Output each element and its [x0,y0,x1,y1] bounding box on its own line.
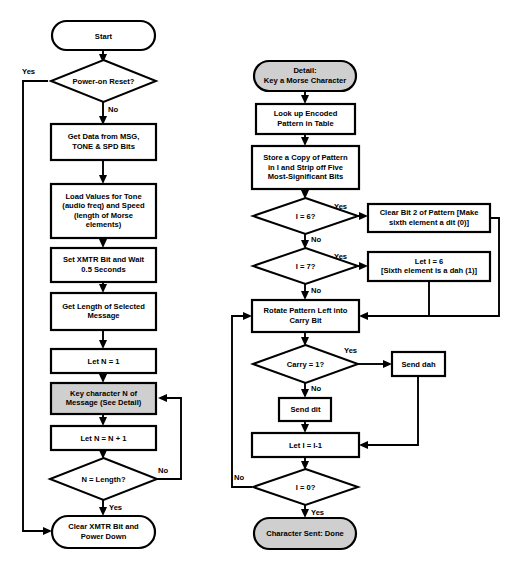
node-power-on-reset[interactable]: Power-on Reset? [51,60,156,102]
node-lookup-pattern[interactable]: Look up EncodedPattern in Table [256,104,355,134]
edge-senddah-to-letidec [366,376,418,445]
node-get-length[interactable]: Get Length of SelectedMessage [51,293,156,330]
node-let-n-1-label: Let N = 1 [88,357,121,366]
node-clear-bit-2-label: Clear Bit 2 of Pattern [Makesixth elemen… [380,208,479,227]
edge-label-neqlength-no: No [158,466,168,475]
edge-label-neqlength-yes: Yes [109,503,122,512]
arrowhead-getdata-to-loadvalues [99,175,107,184]
node-send-dit-label: Send dit [291,405,321,414]
arrowhead-ieq0-yes [301,509,309,518]
node-store-copy-label: Store a Copy of Patternin I and Strip of… [263,153,348,181]
node-start[interactable]: Start [52,21,155,50]
arrowhead-ieq0-no [243,312,252,320]
node-let-n-increment-label: Let N = N + 1 [80,434,127,443]
node-character-sent-done-label: Character Sent: Done [266,529,344,538]
edge-label-carry-yes: Yes [344,346,357,355]
node-let-i-6[interactable]: Let I = 6[Sixth element is a dah (1)] [368,252,490,281]
node-detail-start[interactable]: Detail:Key a Morse Character [254,61,356,91]
node-rotate-pattern[interactable]: Rotate Pattern Left intoCarry Bit [252,300,359,332]
node-let-n-increment[interactable]: Let N = N + 1 [51,426,156,450]
edge-label-ieq7-no: No [311,286,321,295]
edge-leti6-return-rail [366,281,429,316]
arrowhead-carry-yes [383,360,392,368]
arrowhead-loadvalues-to-setxmtr [99,239,107,248]
node-i-equals-6-label: I = 6? [296,212,316,221]
arrowhead-setxmtr-to-getlength [99,284,107,293]
flowchart-canvas: Yes No No Yes Start Power-on Reset? Get … [0,0,513,571]
edge-label-reset-yes: Yes [22,67,35,76]
node-let-i-decrement-label: Let I = I-1 [289,441,323,450]
edge-label-ieq6-no: No [311,235,321,244]
arrowhead-detailstart-to-lookup [301,95,309,104]
node-carry-equals-1-label: Carry = 1? [287,360,325,369]
node-clear-bit-2[interactable]: Clear Bit 2 of Pattern [Makesixth elemen… [368,204,490,232]
edge-label-ieq0-yes: Yes [311,508,324,517]
edge-label-carry-no: No [311,384,321,393]
arrowhead-ieq7-no [301,291,309,300]
arrowhead-neqlength-yes [99,507,107,516]
node-start-label: Start [95,32,113,41]
node-send-dah[interactable]: Send dah [392,352,445,376]
arrowhead-carry-no [301,389,309,398]
arrowhead-neqlength-no-loop [158,394,167,402]
arrowhead-getlength-to-letn1 [99,340,107,349]
node-character-sent-done[interactable]: Character Sent: Done [254,518,356,549]
node-lookup-pattern-label: Look up EncodedPattern in Table [274,109,338,128]
node-load-values[interactable]: Load Values for Tone(audio freq) and Spe… [51,184,156,238]
node-i-equals-0[interactable]: I = 0? [253,469,358,505]
node-get-data-label: Get Data from MSG,TONE & SPD Bits [68,132,140,151]
node-power-on-reset-label: Power-on Reset? [72,77,134,86]
node-key-character-label: Key character N ofMessage (See Detail) [66,389,142,408]
flowchart-svg: Yes No No Yes Start Power-on Reset? Get … [0,0,513,571]
arrowhead-letn1-to-keychar [99,374,107,383]
node-key-character[interactable]: Key character N ofMessage (See Detail) [51,383,156,414]
edge-reset-yes-rail [23,81,48,531]
edge-label-ieq0-no: No [234,473,244,482]
node-n-equals-length-label: N = Length? [81,475,125,484]
node-set-xmtr[interactable]: Set XMTR Bit and Wait0.5 Seconds [51,248,156,282]
node-send-dit[interactable]: Send dit [279,398,331,421]
arrowhead-senddit-to-letidec [301,424,309,433]
node-let-i-decrement[interactable]: Let I = I-1 [252,433,359,457]
node-get-data[interactable]: Get Data from MSG,TONE & SPD Bits [51,124,156,160]
arrowhead-reset-yes [43,527,52,535]
node-i-equals-7-label: I = 7? [296,262,316,271]
node-i-equals-0-label: I = 0? [296,483,316,492]
node-store-copy[interactable]: Store a Copy of Patternin I and Strip of… [252,146,359,189]
node-let-n-1[interactable]: Let N = 1 [51,349,156,373]
node-n-equals-length[interactable]: N = Length? [50,458,157,500]
edge-ieq0-no-rail [232,316,252,487]
edge-label-reset-no: No [108,105,118,114]
node-clear-xmtr-power-down[interactable]: Clear XMTR Bit andPower Down [52,516,155,548]
arrowhead-senddah-to-letidec [359,441,368,449]
arrowhead-keychar-to-letninc [99,417,107,426]
node-carry-equals-1[interactable]: Carry = 1? [253,345,358,383]
node-send-dah-label: Send dah [401,360,436,369]
arrowhead-lookup-to-storecopy [301,137,309,146]
